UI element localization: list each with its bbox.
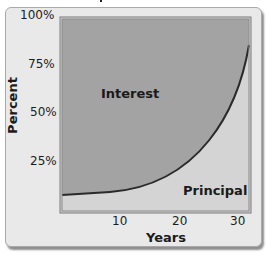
y-tick-50: 50% [30, 105, 57, 119]
x-axis-label: Years [146, 230, 186, 245]
y-tick-100: 100% [20, 8, 54, 22]
y-tick-75: 75% [28, 57, 55, 71]
y-axis-label: Percent [5, 77, 20, 134]
chart-plot [0, 0, 267, 255]
x-tick-20: 20 [172, 214, 187, 228]
x-tick-10: 10 [112, 214, 127, 228]
y-tick-25: 25% [30, 154, 57, 168]
x-tick-30: 30 [230, 214, 245, 228]
interest-label: Interest [101, 86, 159, 101]
principal-label: Principal [183, 183, 247, 198]
